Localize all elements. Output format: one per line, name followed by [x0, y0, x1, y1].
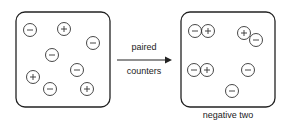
negative-counter-icon	[44, 83, 57, 96]
positive-counter-icon	[58, 23, 71, 36]
negative-counter-icon	[87, 37, 100, 50]
negative-counter-icon	[188, 64, 201, 77]
positive-counter-icon	[27, 71, 40, 84]
negative-counter-icon	[24, 24, 37, 37]
left-box	[16, 12, 110, 107]
arrow-label-top: paired	[118, 42, 170, 52]
positive-counter-icon	[202, 25, 215, 38]
positive-counter-icon	[81, 83, 94, 96]
diagram-canvas	[0, 0, 285, 126]
arrow	[117, 57, 172, 64]
negative-counter-icon	[71, 64, 84, 77]
positive-counter-icon	[238, 27, 251, 40]
arrow-label-bottom: counters	[118, 66, 170, 76]
negative-counter-icon	[250, 34, 263, 47]
right-box	[181, 12, 275, 107]
right-box-caption: negative two	[181, 110, 275, 120]
positive-counter-icon	[201, 64, 214, 77]
negative-counter-icon	[242, 64, 255, 77]
negative-counter-icon	[226, 85, 239, 98]
negative-counter-icon	[46, 49, 59, 62]
negative-counter-icon	[189, 25, 202, 38]
